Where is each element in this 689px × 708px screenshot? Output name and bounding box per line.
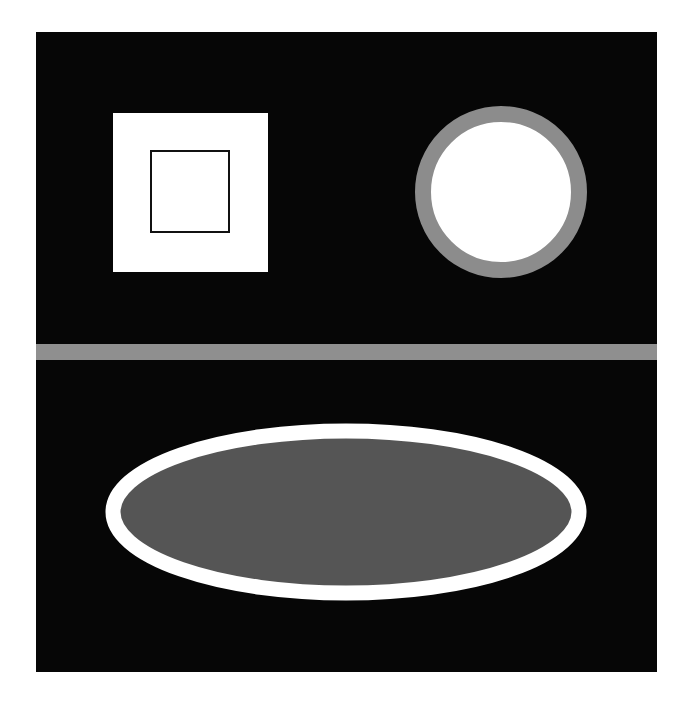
diagram-canvas <box>0 0 689 708</box>
gray-ellipse-white-outline <box>113 431 579 593</box>
outlined-inner-square <box>151 151 229 232</box>
gray-divider-bar <box>36 344 657 360</box>
gray-ringed-circle <box>423 114 579 270</box>
